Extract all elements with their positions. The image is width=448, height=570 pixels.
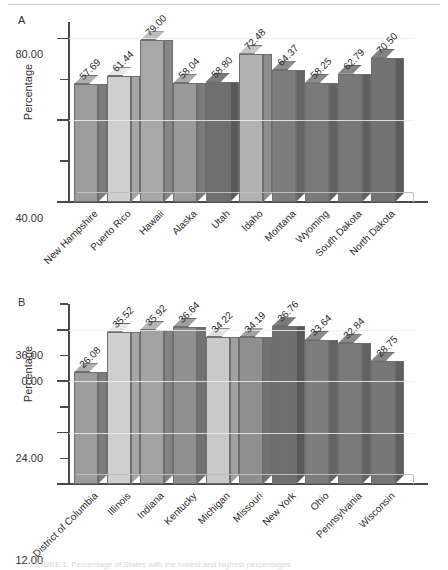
bar[interactable] — [338, 343, 362, 484]
y-axis-tick-label: 36.00 — [15, 349, 43, 361]
y-axis-minor-tick — [60, 303, 68, 304]
bar-front-face — [239, 337, 263, 484]
x-axis-category-label: Indiana — [135, 490, 166, 521]
bar-side-face — [329, 340, 338, 484]
floor-back-edge — [77, 192, 413, 193]
panel-b-letter: B — [18, 296, 26, 308]
bar-side-face — [296, 326, 305, 484]
x-axis-category-label: New Hampshire — [42, 208, 100, 266]
bar-front-face — [272, 326, 296, 484]
x-axis-category-label: Idaho — [239, 208, 264, 233]
y-axis-tick-label: 40.00 — [15, 212, 43, 224]
x-axis-category-label: Utah — [209, 208, 232, 231]
x-axis-category-label: Montana — [262, 208, 297, 243]
bar-front-face — [74, 84, 98, 202]
bar[interactable] — [107, 332, 131, 484]
gridline — [69, 120, 414, 121]
panel-b-y-axis-label: Percentage — [22, 319, 34, 429]
bar-side-face — [263, 54, 272, 202]
bar-front-face — [338, 343, 362, 484]
y-axis-major-tick: 0.00 — [57, 201, 68, 203]
bar-side-face — [395, 58, 404, 202]
bar-side-face — [131, 76, 140, 202]
bar[interactable] — [107, 76, 131, 202]
chart-panel-b: B Percentage 0.0012.0024.0036.00 Distric… — [0, 290, 448, 568]
bar-front-face — [371, 361, 395, 484]
y-axis-major-tick: 80.00 — [57, 38, 68, 40]
bar-side-face — [230, 337, 239, 484]
bar-front-face — [305, 83, 329, 202]
bar-front-face — [107, 332, 131, 484]
bar-side-face — [395, 361, 404, 484]
x-axis-category-label: Alaska — [170, 208, 199, 237]
bar-front-face — [206, 337, 230, 484]
bar-front-face — [140, 40, 164, 202]
bar-front-face — [74, 372, 98, 484]
bar-side-face — [230, 82, 239, 202]
y-axis-major-tick: 12.00 — [57, 432, 68, 434]
bar-side-face — [164, 330, 173, 484]
bar[interactable] — [140, 40, 164, 202]
bar-side-face — [164, 40, 173, 202]
bar[interactable] — [305, 340, 329, 484]
y-axis-tick-label: 80.00 — [15, 48, 43, 60]
figure-top-rule — [8, 4, 440, 5]
figure-caption: FIGURE 1. Percentage of States with the … — [30, 560, 430, 569]
bar-front-face — [272, 70, 296, 202]
y-axis-major-tick: 0.00 — [57, 483, 68, 485]
bar[interactable] — [173, 327, 197, 484]
bar-front-face — [305, 340, 329, 484]
y-axis-minor-tick — [60, 406, 68, 407]
bar[interactable] — [371, 58, 395, 202]
y-axis-major-tick: 24.00 — [57, 380, 68, 382]
bar[interactable] — [140, 330, 164, 484]
bar[interactable] — [272, 70, 296, 202]
bar-front-face — [107, 76, 131, 202]
y-axis-minor-tick — [60, 79, 68, 80]
bar-front-face — [239, 54, 263, 202]
gridline — [69, 330, 414, 331]
x-axis-category-label: Kentucky — [162, 490, 199, 527]
x-axis-category-label: Michigan — [196, 490, 232, 526]
x-axis-category-label: Illinois — [105, 490, 132, 517]
chart-panel-a: A Percentage 0.0040.0080.00 New Hampshir… — [0, 8, 448, 286]
bar[interactable] — [206, 82, 230, 202]
bar[interactable] — [206, 337, 230, 484]
bar[interactable] — [338, 74, 362, 202]
gridline — [69, 433, 414, 434]
bar[interactable] — [371, 361, 395, 484]
bar-side-face — [131, 332, 140, 484]
floor-right-edge — [413, 193, 414, 202]
bar-front-face — [173, 327, 197, 484]
bar-front-face — [206, 82, 230, 202]
bar-side-face — [362, 343, 371, 484]
x-axis-category-label: New York — [260, 490, 298, 528]
gridline — [69, 381, 414, 382]
bar-side-face — [197, 83, 206, 202]
floor-right-edge — [413, 475, 414, 484]
x-axis-category-label: District of Columbia — [31, 490, 100, 559]
y-axis-major-tick: 40.00 — [57, 119, 68, 121]
bar-side-face — [296, 70, 305, 202]
bar[interactable] — [74, 372, 98, 484]
bar[interactable] — [239, 337, 263, 484]
bar[interactable] — [305, 83, 329, 202]
y-axis-major-tick: 36.00 — [57, 329, 68, 331]
x-axis-category-label: Hawaii — [137, 208, 166, 237]
bar[interactable] — [239, 54, 263, 202]
y-axis-minor-tick — [60, 160, 68, 161]
bar-front-face — [338, 74, 362, 202]
bar[interactable] — [173, 83, 197, 202]
bar-front-face — [140, 330, 164, 484]
gridline — [69, 38, 414, 39]
y-axis-minor-tick — [60, 355, 68, 356]
bar-side-face — [362, 74, 371, 202]
panel-a-letter: A — [18, 14, 26, 26]
bar[interactable] — [272, 326, 296, 484]
x-axis-category-label: Ohio — [308, 490, 331, 513]
bar-side-face — [98, 84, 107, 202]
bar[interactable] — [74, 84, 98, 202]
bar-side-face — [263, 337, 272, 484]
y-axis-minor-tick — [60, 458, 68, 459]
bar-side-face — [329, 83, 338, 202]
